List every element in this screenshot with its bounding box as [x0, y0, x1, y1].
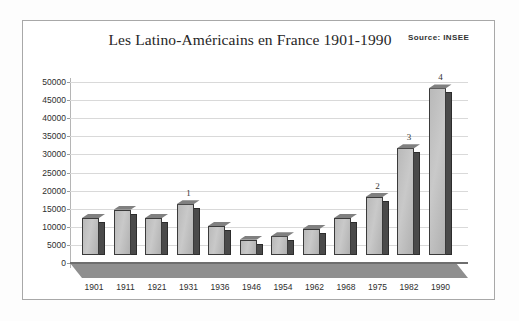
bar[interactable]: [145, 218, 168, 255]
chart-baseline: [70, 262, 468, 264]
bar-front-face: [240, 240, 257, 255]
bar-side-face: [414, 152, 420, 255]
bar-side-face: [257, 244, 263, 255]
chart-page: Les Latino-Américains en France 1901-199…: [0, 0, 519, 321]
bar[interactable]: [208, 226, 231, 255]
y-tick-label: 50000: [42, 77, 66, 87]
bar-front-face: [208, 226, 225, 255]
y-tick-label: 10000: [42, 222, 66, 232]
bar-annotation: 2: [363, 181, 393, 191]
bar-front-face: [271, 236, 288, 255]
y-tick-mark: [67, 191, 70, 192]
y-tick-mark: [67, 118, 70, 119]
bar-front-face: [145, 218, 162, 255]
bar-front-face: [397, 148, 414, 255]
bar[interactable]: [397, 148, 420, 255]
bar-side-face: [320, 233, 326, 255]
bar[interactable]: [334, 218, 357, 255]
bar[interactable]: [429, 88, 452, 255]
bar[interactable]: [177, 204, 200, 255]
y-tick-mark: [67, 100, 70, 101]
bar-front-face: [366, 197, 383, 255]
y-tick-label: 5000: [47, 240, 66, 250]
bar-front-face: [429, 88, 446, 255]
bar-side-face: [288, 240, 294, 255]
y-tick-mark: [67, 136, 70, 137]
bar[interactable]: [240, 240, 263, 255]
bar-side-face: [194, 208, 200, 255]
y-tick-mark: [67, 245, 70, 246]
gridline: [70, 100, 468, 101]
chart-floor-plate: [70, 263, 468, 278]
bar-side-face: [131, 214, 137, 255]
bar-front-face: [303, 229, 320, 255]
gridline: [70, 118, 468, 119]
y-tick-label: 20000: [42, 186, 66, 196]
bar-side-face: [225, 230, 231, 255]
bar-annotation: 3: [394, 132, 424, 142]
page-title: Les Latino-Américains en France 1901-199…: [100, 31, 400, 49]
y-axis-labels: 0500010000150002000025000300003500040000…: [28, 78, 66, 270]
bar-side-face: [351, 222, 357, 255]
plot-area: 1234 19011911192119311936194619541962196…: [70, 78, 468, 270]
bar[interactable]: [82, 218, 105, 255]
bar-front-face: [334, 218, 351, 255]
x-tick-label: 1990: [421, 282, 461, 292]
bar-annotation: 4: [426, 72, 456, 82]
y-tick-label: 40000: [42, 113, 66, 123]
bar[interactable]: [366, 197, 389, 255]
bar-side-face: [162, 222, 168, 255]
source-note: Source: INSEE: [408, 33, 469, 42]
y-tick-mark: [67, 82, 70, 83]
bar-front-face: [177, 204, 194, 255]
bar[interactable]: [303, 229, 326, 255]
y-tick-label: 45000: [42, 95, 66, 105]
bar-side-face: [446, 92, 452, 255]
bar-front-face: [82, 218, 99, 255]
y-tick-mark: [67, 154, 70, 155]
y-tick-label: 0: [61, 258, 66, 268]
bar[interactable]: [271, 236, 294, 255]
y-tick-mark: [67, 209, 70, 210]
bar-front-face: [114, 210, 131, 255]
y-tick-label: 25000: [42, 168, 66, 178]
y-tick-label: 30000: [42, 149, 66, 159]
bar-side-face: [383, 201, 389, 255]
y-tick-mark: [67, 173, 70, 174]
bar-side-face: [99, 222, 105, 255]
bar[interactable]: [114, 210, 137, 255]
y-tick-label: 15000: [42, 204, 66, 214]
y-tick-mark: [67, 227, 70, 228]
y-tick-label: 35000: [42, 131, 66, 141]
bar-annotation: 1: [174, 188, 204, 198]
gridline: [70, 82, 468, 83]
